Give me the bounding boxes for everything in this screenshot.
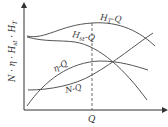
curve-eta-q	[27, 61, 148, 106]
label-eta-q: η-Q	[51, 58, 69, 74]
y-axis-label: N · η · Hst · HT	[7, 20, 18, 83]
chart-canvas: HT-Q Hst-Q η-Q N-Q N · η · Hst · HT Q	[0, 0, 168, 127]
curve-hst-q	[27, 37, 147, 100]
label-n-q: N-Q	[64, 83, 83, 95]
x-axis-label: Q	[88, 114, 96, 124]
